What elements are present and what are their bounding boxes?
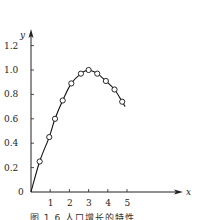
figure-caption: 图 1.6 人口增长的特性	[30, 211, 135, 220]
y-tick-label: 0.6	[4, 114, 19, 124]
data-point-marker	[60, 98, 65, 103]
y-tick-label: 0.8	[4, 89, 19, 99]
axis-ticks: 123450.20.40.60.81.01.2	[4, 41, 131, 208]
y-tick-label: 0.2	[4, 163, 18, 173]
data-point-marker	[78, 71, 83, 76]
x-axis-label: x	[186, 187, 191, 197]
data-markers	[37, 67, 125, 164]
y-axis-label: y	[19, 30, 26, 40]
data-point-marker	[52, 116, 57, 121]
x-tick-label: 1	[48, 198, 54, 208]
data-curve	[31, 70, 125, 192]
y-tick-label: 0.4	[4, 138, 19, 148]
axes: xy0	[18, 29, 191, 197]
origin-label: 0	[18, 187, 24, 197]
data-point-marker	[103, 78, 108, 83]
x-tick-label: 5	[125, 198, 131, 208]
y-tick-label: 1.2	[4, 41, 18, 51]
data-point-marker	[37, 159, 42, 164]
x-tick-label: 3	[86, 198, 92, 208]
data-point-marker	[112, 87, 117, 92]
data-point-marker	[47, 135, 52, 140]
fitted-curve	[31, 70, 125, 192]
data-point-marker	[95, 71, 100, 76]
data-point-marker	[120, 99, 125, 104]
line-chart: xy0 123450.20.40.60.81.01.2	[0, 0, 202, 220]
x-tick-label: 2	[67, 198, 73, 208]
data-point-marker	[69, 81, 74, 86]
x-tick-label: 4	[105, 198, 111, 208]
y-tick-label: 1.0	[4, 65, 19, 75]
data-point-marker	[86, 67, 91, 72]
